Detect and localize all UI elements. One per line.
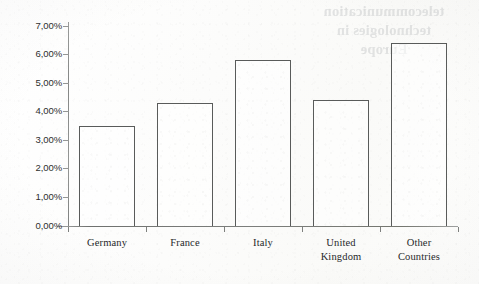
bar <box>79 126 135 226</box>
y-axis-tick <box>63 111 69 112</box>
y-axis-tick-label: 3,00% <box>18 134 62 145</box>
y-axis-tick-label: 1,00% <box>18 191 62 202</box>
x-axis-category-label-line: Germany <box>68 236 146 250</box>
x-axis-category-label-line: United <box>302 236 380 250</box>
y-axis-tick-label-wrap: 5,00% <box>14 77 62 89</box>
y-axis-tick <box>63 140 69 141</box>
y-axis-tick-label-wrap: 1,00% <box>14 191 62 203</box>
x-axis-category-label-line: Italy <box>224 236 302 250</box>
x-axis-category-label: France <box>146 236 224 250</box>
y-axis-tick-label: 6,00% <box>18 48 62 59</box>
y-axis-tick <box>63 83 69 84</box>
y-axis-tick-label: 0,00% <box>18 220 62 231</box>
y-axis-tick-label-wrap: 0,00% <box>14 220 62 232</box>
x-axis-tick-origin <box>68 227 69 232</box>
x-axis-category-label: Germany <box>68 236 146 250</box>
y-axis-tick-label-wrap: 3,00% <box>14 134 62 146</box>
x-axis-category-label-line: Countries <box>380 250 458 264</box>
y-axis-tick-label: 7,00% <box>18 20 62 31</box>
x-axis-tick <box>146 227 147 232</box>
y-axis-tick-label: 5,00% <box>18 77 62 88</box>
bar <box>391 43 447 226</box>
y-axis-tick-label-wrap: 4,00% <box>14 105 62 117</box>
x-axis-category-label: OtherCountries <box>380 236 458 263</box>
y-axis-tick <box>63 26 69 27</box>
bar <box>235 60 291 226</box>
y-axis-tick <box>63 168 69 169</box>
y-axis-tick-label-wrap: 6,00% <box>14 48 62 60</box>
x-axis-category-label: UnitedKingdom <box>302 236 380 263</box>
bar <box>313 100 369 226</box>
x-axis-tick <box>224 227 225 232</box>
x-axis-category-label-line: France <box>146 236 224 250</box>
y-axis-tick <box>63 54 69 55</box>
y-axis-tick-label: 2,00% <box>18 162 62 173</box>
bar-chart-plot: 0,00%1,00%2,00%3,00%4,00%5,00%6,00%7,00%… <box>0 0 479 284</box>
bar <box>157 103 213 226</box>
x-axis-line <box>57 226 458 227</box>
y-axis-tick-label: 4,00% <box>18 105 62 116</box>
x-axis-category-label-line: Other <box>380 236 458 250</box>
x-axis-tick <box>302 227 303 232</box>
x-axis-tick <box>380 227 381 232</box>
y-axis-tick-label-wrap: 2,00% <box>14 162 62 174</box>
x-axis-tick <box>458 227 459 232</box>
y-axis-tick <box>63 197 69 198</box>
chart-page: telecommunication technologies in Europe… <box>0 0 479 284</box>
x-axis-category-label-line: Kingdom <box>302 250 380 264</box>
x-axis-category-label: Italy <box>224 236 302 250</box>
y-axis-tick-label-wrap: 7,00% <box>14 20 62 32</box>
